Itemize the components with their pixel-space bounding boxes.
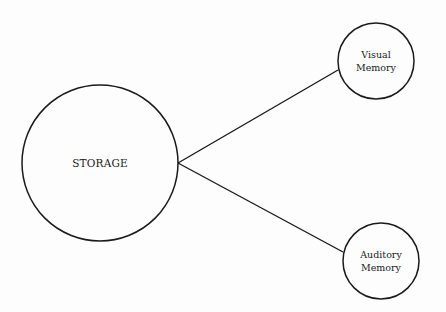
- node-storage-label: STORAGE: [72, 157, 128, 170]
- edge-storage-to-auditory: [178, 163, 343, 252]
- edge-storage-to-visual: [178, 70, 338, 163]
- node-auditory-memory-label: Auditory Memory: [360, 248, 402, 274]
- node-visual-memory-label: Visual Memory: [356, 48, 396, 74]
- diagram-canvas: STORAGE Visual Memory Auditory Memory: [0, 0, 446, 312]
